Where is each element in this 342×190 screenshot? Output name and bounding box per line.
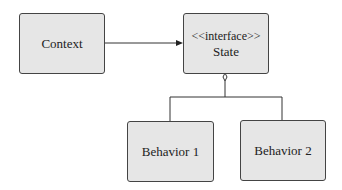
behavior1-label: Behavior 1: [142, 144, 199, 160]
behavior2-box: Behavior 2: [240, 120, 326, 181]
arrowhead-icon: [176, 40, 183, 46]
behavior2-label: Behavior 2: [254, 143, 311, 159]
context-label: Context: [41, 36, 82, 52]
hollow-arrowhead-icon: [223, 73, 227, 81]
state-interface-box: <<interface>> State: [183, 13, 269, 74]
state-label: State: [213, 44, 239, 60]
state-stereotype: <<interface>>: [191, 28, 260, 44]
uml-state-pattern-diagram: Context <<interface>> State Behavior 1 B…: [0, 0, 342, 190]
behavior1-box: Behavior 1: [127, 121, 214, 182]
context-box: Context: [19, 13, 105, 74]
